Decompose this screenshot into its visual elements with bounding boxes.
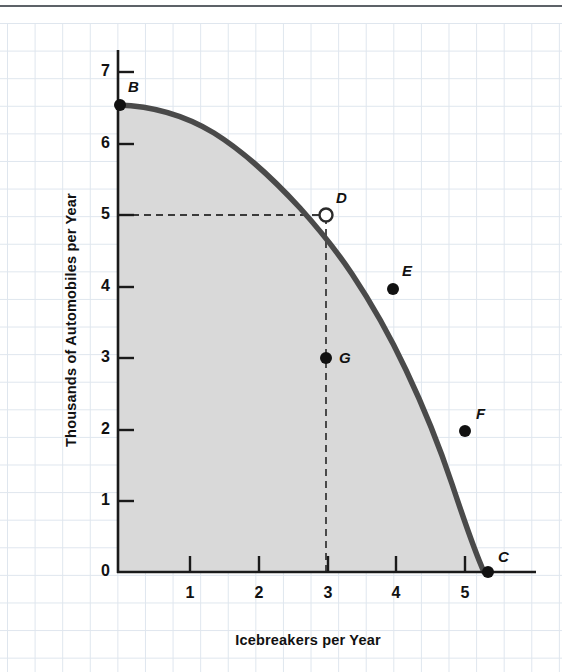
data-point-f[interactable]	[459, 425, 471, 437]
x-axis-title: Icebreakers per Year	[118, 632, 498, 648]
y-tick-label-5: 5	[88, 205, 110, 223]
shaded-feasible-region	[118, 105, 484, 572]
point-label-e: E	[402, 262, 412, 279]
point-label-d: D	[336, 189, 347, 206]
ppf-chart: Thousands of Automobiles per Year Icebre…	[0, 0, 562, 672]
x-tick-label-2: 2	[248, 584, 270, 602]
point-label-g: G	[339, 349, 351, 366]
x-tick-label-3: 3	[317, 584, 339, 602]
y-tick-label-0: 0	[88, 562, 110, 580]
data-point-g[interactable]	[320, 352, 332, 364]
data-point-b[interactable]	[114, 99, 126, 111]
y-axis-title: Thousands of Automobiles per Year	[63, 100, 79, 540]
y-tick-label-7: 7	[88, 62, 110, 80]
x-tick-label-4: 4	[385, 584, 407, 602]
data-point-d[interactable]	[320, 209, 333, 222]
point-label-b: B	[128, 78, 139, 95]
y-tick-label-1: 1	[88, 491, 110, 509]
plot-canvas	[0, 0, 562, 672]
y-tick-label-6: 6	[88, 134, 110, 152]
data-point-c[interactable]	[482, 566, 494, 578]
data-point-e[interactable]	[387, 283, 399, 295]
y-tick-label-2: 2	[88, 420, 110, 438]
point-label-f: F	[476, 405, 485, 422]
y-tick-label-3: 3	[88, 348, 110, 366]
x-tick-label-5: 5	[454, 584, 476, 602]
x-tick-label-1: 1	[179, 584, 201, 602]
y-tick-label-4: 4	[88, 277, 110, 295]
point-label-c: C	[498, 548, 509, 565]
